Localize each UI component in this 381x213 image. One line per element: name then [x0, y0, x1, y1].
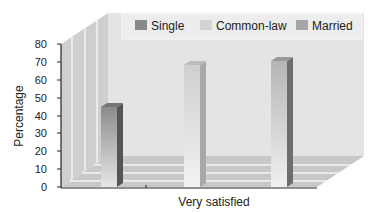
legend-label-common-law: Common-law: [216, 19, 287, 33]
y-tick-label: 60: [35, 74, 47, 86]
bar-married: [271, 57, 293, 187]
legend-swatch-married: [296, 20, 308, 30]
legend-swatch-single: [135, 20, 147, 30]
bar-chart: Single Common-law Married 0 10 20: [0, 0, 381, 213]
legend-swatch-common-law: [200, 20, 212, 30]
legend: Single Common-law Married: [122, 13, 362, 39]
x-axis-label: Very satisfied: [178, 195, 249, 209]
y-ticks: 0 10 20 30 40 50 60 70 80: [35, 38, 61, 193]
y-tick-label: 0: [41, 181, 47, 193]
y-tick-label: 10: [35, 163, 47, 175]
legend-label-single: Single: [151, 19, 185, 33]
y-tick-label: 50: [35, 92, 47, 104]
y-tick-label: 80: [35, 38, 47, 50]
y-tick-label: 20: [35, 145, 47, 157]
y-tick-label: 30: [35, 127, 47, 139]
bar-single: [101, 103, 123, 187]
legend-label-married: Married: [312, 19, 353, 33]
y-tick-label: 40: [35, 110, 47, 122]
y-axis-label: Percentage: [12, 85, 26, 147]
bar-common-law: [184, 61, 206, 187]
y-tick-label: 70: [35, 56, 47, 68]
